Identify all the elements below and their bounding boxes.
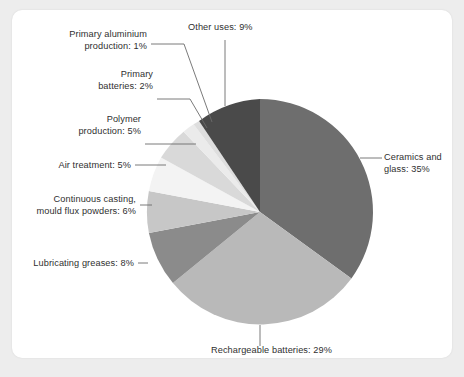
pie-label-air-treatment: Air treatment: 5% (0, 159, 131, 171)
pie-label-primary-aluminium: Primary aluminium production: 1% (0, 28, 147, 52)
pie-label-ceramics-and-glass: Ceramics and glass: 35% (384, 151, 442, 175)
pie-label-continuous-casting: Continuous casting, mould flux powders: … (0, 193, 136, 217)
leader-line-primary-aluminium (151, 44, 212, 122)
pie-chart-svg (0, 0, 464, 377)
pie-label-lubricating-greases: Lubricating greases: 8% (0, 257, 134, 269)
pie-slices (147, 99, 373, 324)
pie-label-polymer-production: Polymer production: 5% (0, 113, 141, 137)
pie-chart: Ceramics and glass: 35% Rechargeable bat… (0, 0, 464, 377)
pie-label-primary-batteries: Primary batteries: 2% (0, 68, 153, 92)
pie-label-rechargeable-batteries: Rechargeable batteries: 29% (211, 344, 332, 356)
pie-label-other-uses: Other uses: 9% (188, 21, 253, 33)
